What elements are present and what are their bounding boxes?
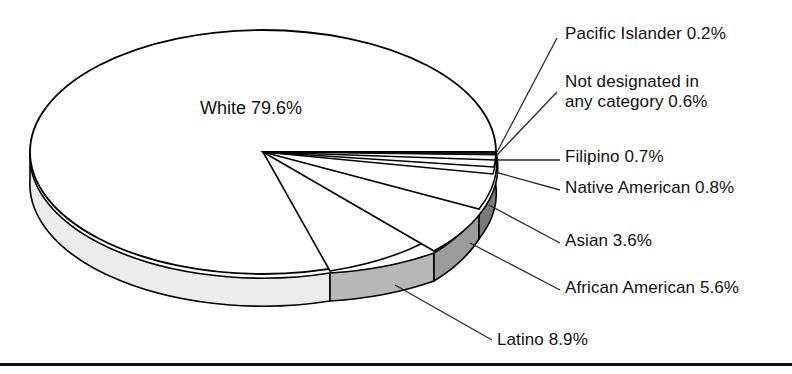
- bottom-divider-rule: [0, 363, 792, 366]
- callout-label-pacific-islander: Pacific Islander 0.2%: [565, 24, 726, 44]
- leader-asian: [489, 205, 560, 243]
- pie-chart-figure: White 79.6% Pacific Islander 0.2% Not de…: [0, 0, 792, 374]
- leader-not-designated: [497, 92, 557, 155]
- leader-latino: [395, 285, 492, 340]
- callout-label-native-american: Native American 0.8%: [565, 178, 734, 198]
- callout-label-asian: Asian 3.6%: [565, 231, 652, 251]
- callout-label-not-designated: Not designated in any category 0.6%: [565, 72, 765, 112]
- callout-label-latino: Latino 8.9%: [497, 330, 588, 350]
- callout-label-african-american: African American 5.6%: [565, 278, 739, 298]
- not-designated-line-2: any category 0.6%: [565, 92, 708, 111]
- leader-native-american: [495, 172, 560, 190]
- callout-label-filipino: Filipino 0.7%: [565, 147, 664, 167]
- slice-label-white: White 79.6%: [200, 98, 302, 118]
- pie-top-face: [30, 30, 498, 274]
- leader-pacific-islander: [497, 38, 557, 152]
- leader-african-american: [470, 243, 560, 290]
- not-designated-line-1: Not designated in: [565, 72, 699, 91]
